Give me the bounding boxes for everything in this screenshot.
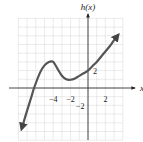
y-tick-label: −2 <box>76 102 85 111</box>
x-tick-label: −4 <box>49 95 58 104</box>
axes <box>9 14 135 140</box>
x-tick-label: −2 <box>66 95 75 104</box>
y-tick-label: 2 <box>93 67 97 76</box>
y-axis-title: h(x) <box>81 2 96 12</box>
chart: h(x) x −4 −2 2 2 −2 <box>0 0 143 142</box>
x-axis-title: x <box>139 83 143 93</box>
x-tick-label: 2 <box>103 95 107 104</box>
